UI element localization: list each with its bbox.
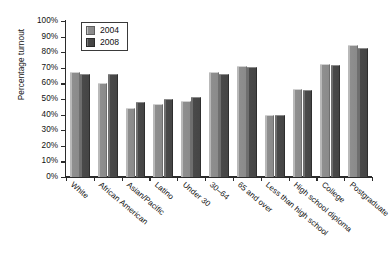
bar-group [316, 21, 344, 177]
bar-group [177, 21, 205, 177]
x-axis-label: Postgraduate [347, 181, 389, 218]
bar-2008 [219, 74, 229, 177]
y-tick-label: 60% [42, 79, 58, 87]
y-tick-mark [61, 52, 65, 53]
bar-2008 [331, 65, 341, 177]
y-tick-mark [61, 130, 65, 131]
x-tick-mark [66, 177, 67, 181]
legend-swatch-2008-icon [86, 38, 95, 47]
x-axis-label: 30–64 [208, 181, 230, 202]
y-tick-label: 100% [37, 17, 58, 25]
bar-group [261, 21, 289, 177]
y-tick-mark [61, 177, 65, 178]
bar-2004 [293, 89, 303, 177]
legend-label-2004: 2004 [100, 26, 119, 35]
y-tick-mark [61, 161, 65, 162]
x-axis-label: White [69, 181, 90, 200]
y-tick-mark [61, 37, 65, 38]
x-axis-label: Under 30 [180, 181, 211, 209]
bar-group [289, 21, 317, 177]
y-tick-mark [61, 68, 65, 69]
y-tick-mark [61, 146, 65, 147]
bar-2004 [237, 66, 247, 177]
y-tick-mark [61, 21, 65, 22]
bar-2008 [80, 74, 90, 177]
y-tick-label: 90% [42, 32, 58, 40]
bar-2004 [126, 108, 136, 177]
x-tick-mark [233, 177, 234, 181]
bar-2004 [153, 104, 163, 177]
y-tick-label: 50% [42, 95, 58, 103]
bar-group [149, 21, 177, 177]
bar-2004 [320, 64, 330, 177]
y-tick-label: 40% [42, 110, 58, 118]
bar-2008 [275, 115, 285, 177]
y-tick-mark [61, 83, 65, 84]
x-axis-label: African American [97, 181, 149, 227]
bar-2004 [209, 72, 219, 177]
x-tick-mark [261, 177, 262, 181]
x-axis-label: Latino [153, 181, 175, 201]
y-tick-label: 0% [46, 173, 58, 181]
y-tick-label: 10% [42, 157, 58, 165]
x-tick-mark [177, 177, 178, 181]
y-tick-label: 70% [42, 64, 58, 72]
legend-item-2004: 2004 [86, 26, 119, 35]
bar-group [344, 21, 372, 177]
chart-legend: 2004 2008 [81, 22, 128, 51]
y-tick-mark [61, 99, 65, 100]
bar-2008 [247, 67, 257, 177]
legend-swatch-2004-icon [86, 26, 95, 35]
bar-2004 [181, 101, 191, 177]
y-tick-label: 30% [42, 126, 58, 134]
bar-2008 [164, 99, 174, 177]
bar-2008 [108, 74, 118, 177]
y-axis-title: Percentage turnout [17, 0, 26, 130]
bar-2008 [358, 48, 368, 177]
y-tick-mark [61, 115, 65, 116]
x-tick-mark [122, 177, 123, 181]
bar-2004 [98, 83, 108, 177]
x-tick-mark [372, 177, 373, 181]
x-tick-mark [94, 177, 95, 181]
y-tick-label: 80% [42, 48, 58, 56]
bar-group [233, 21, 261, 177]
bar-group [205, 21, 233, 177]
bar-2004 [348, 45, 358, 177]
bar-2008 [303, 90, 313, 177]
bar-2008 [191, 97, 201, 177]
legend-label-2008: 2008 [100, 38, 119, 47]
x-tick-mark [149, 177, 150, 181]
bar-2008 [136, 102, 146, 177]
y-tick-label: 20% [42, 142, 58, 150]
x-tick-mark [344, 177, 345, 181]
x-tick-mark [289, 177, 290, 181]
x-tick-mark [205, 177, 206, 181]
legend-item-2008: 2008 [86, 38, 119, 47]
bar-2004 [265, 115, 275, 177]
bar-2004 [70, 72, 80, 177]
x-tick-mark [316, 177, 317, 181]
